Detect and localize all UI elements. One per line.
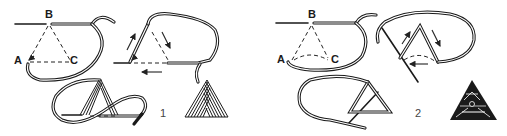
- figure-1-step-setup: B A C: [14, 8, 114, 80]
- figure-2-finished-motif: [450, 80, 497, 120]
- figure-1: B A C: [14, 8, 228, 124]
- figure-number-2: 2: [415, 107, 421, 119]
- point-label-a: A: [277, 53, 285, 65]
- dashed-edge-bc: [50, 26, 70, 60]
- dashed-edge-ab: [28, 26, 48, 62]
- point-label-b: B: [308, 8, 316, 20]
- figure-number-1: 1: [160, 107, 166, 119]
- stitch-diagram: B A C: [0, 0, 507, 136]
- figure-1-finished-motif: [185, 80, 228, 117]
- figure-1-step-stitch: [114, 14, 218, 82]
- figure-2-step-loop: 2: [299, 76, 421, 128]
- figure-2: B A C 2: [276, 8, 497, 128]
- point-label-b: B: [45, 8, 53, 20]
- figure-1-step-loop: 1: [53, 80, 166, 124]
- point-label-c: C: [70, 54, 78, 66]
- figure-2-step-stitch: [377, 12, 474, 82]
- point-label-a: A: [14, 54, 22, 66]
- stitch-bundle: [80, 80, 118, 115]
- point-label-c: C: [331, 53, 339, 65]
- figure-2-step-setup: B A C: [276, 8, 376, 70]
